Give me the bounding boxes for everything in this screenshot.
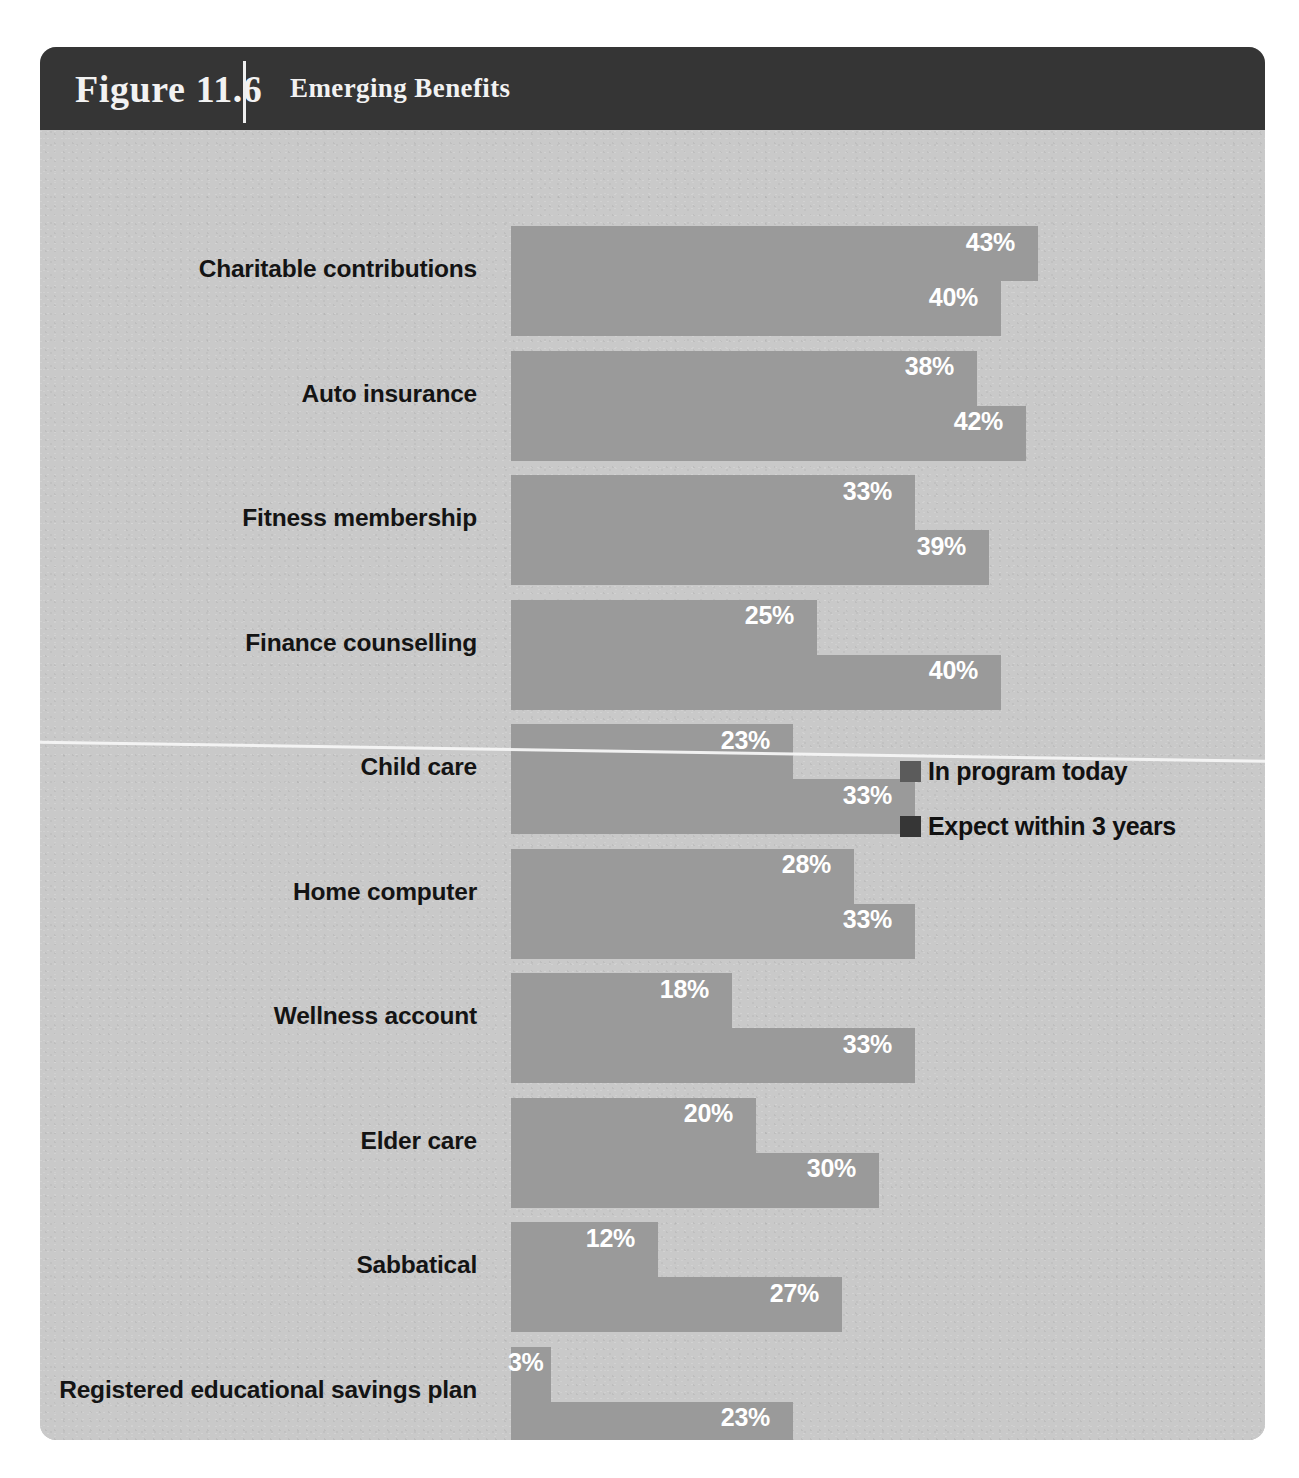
bar-group-in-program-today: 28%: [500, 838, 843, 893]
chart-row: Sabbatical12%27%: [40, 1211, 1265, 1321]
bar-value-label: 39%: [917, 531, 966, 560]
bar-group-in-program-today: 38%: [500, 340, 966, 395]
chart-row: Fitness membership33%39%: [40, 464, 1265, 574]
chart-row: Registered educational savings plan3%23%: [40, 1336, 1265, 1441]
bar-group-expect-within-3-years: 42%: [500, 395, 1015, 450]
category-label: Sabbatical: [40, 1251, 477, 1279]
legend-item: In program today: [900, 757, 1176, 786]
bar-group-expect-within-3-years: 39%: [500, 519, 978, 574]
category-label: Elder care: [40, 1127, 477, 1155]
bar-group-expect-within-3-years: 23%: [500, 1391, 782, 1441]
figure-number: Figure 11.6: [40, 67, 243, 111]
bar-group-in-program-today: 25%: [500, 589, 806, 644]
bar-value-label: 28%: [782, 850, 831, 879]
chart-row: Auto insurance38%42%: [40, 340, 1265, 450]
bar-value-label: 12%: [586, 1223, 635, 1252]
category-label: Fitness membership: [40, 504, 477, 532]
category-label: Home computer: [40, 878, 477, 906]
bar-value-label: 38%: [905, 352, 954, 381]
bar-shadow: [511, 655, 1001, 710]
bar-value-label: 18%: [660, 974, 709, 1003]
chart-row: Wellness account18%33%: [40, 962, 1265, 1072]
bar-group-expect-within-3-years: 27%: [500, 1266, 831, 1321]
figure-container: Figure 11.6 Emerging Benefits Charitable…: [40, 47, 1265, 1440]
bar-group-expect-within-3-years: 30%: [500, 1142, 868, 1197]
bar-value-label: 20%: [684, 1099, 733, 1128]
figure-body: Charitable contributions43%40%Auto insur…: [40, 130, 1265, 1440]
figure-title: Emerging Benefits: [246, 73, 511, 104]
bar-group-in-program-today: 18%: [500, 962, 721, 1017]
bar-group-expect-within-3-years: 40%: [500, 270, 990, 325]
chart-row: Elder care20%30%: [40, 1087, 1265, 1197]
bar-value-label: 42%: [954, 407, 1003, 436]
bar-value-label: 3%: [508, 1348, 544, 1377]
category-label: Auto insurance: [40, 380, 477, 408]
bar-value-label: 33%: [843, 1029, 892, 1058]
bar-value-label: 30%: [807, 1154, 856, 1183]
bar-value-label: 43%: [966, 227, 1015, 256]
bar-value-label: 23%: [721, 725, 770, 754]
bar-value-label: 40%: [929, 282, 978, 311]
category-label: Charitable contributions: [40, 255, 477, 283]
bar-group-expect-within-3-years: 40%: [500, 644, 990, 699]
bar-shadow: [511, 406, 1026, 461]
bar-group-in-program-today: 23%: [500, 713, 782, 768]
category-label: Wellness account: [40, 1002, 477, 1030]
category-label: Child care: [40, 753, 477, 781]
category-label: Finance counselling: [40, 629, 477, 657]
bar-group-in-program-today: 20%: [500, 1087, 745, 1142]
legend-item-label: In program today: [928, 757, 1127, 786]
bar-value-label: 27%: [770, 1278, 819, 1307]
bar-value-label: 25%: [745, 601, 794, 630]
chart-row: Finance counselling25%40%: [40, 589, 1265, 699]
series-dark-swatch: [900, 816, 921, 837]
legend-item: Expect within 3 years: [900, 812, 1176, 841]
bar-group-expect-within-3-years: 33%: [500, 1017, 904, 1072]
bar-group-expect-within-3-years: 33%: [500, 893, 904, 948]
bar-value-label: 23%: [721, 1403, 770, 1432]
category-label: Registered educational savings plan: [40, 1376, 477, 1404]
bar-group-in-program-today: 12%: [500, 1211, 647, 1266]
bar-group-expect-within-3-years: 33%: [500, 768, 904, 823]
legend-item-label: Expect within 3 years: [928, 812, 1176, 841]
bar-group-in-program-today: 33%: [500, 464, 904, 519]
figure-header: Figure 11.6 Emerging Benefits: [40, 47, 1265, 130]
chart-row: Charitable contributions43%40%: [40, 215, 1265, 325]
bar-shadow: [511, 281, 1001, 336]
bar-group-in-program-today: 43%: [500, 215, 1027, 270]
bar-group-in-program-today: 3%: [500, 1336, 540, 1391]
bar-value-label: 33%: [843, 780, 892, 809]
bar-value-label: 33%: [843, 905, 892, 934]
bar-value-label: 33%: [843, 476, 892, 505]
chart-legend: In program today Expect within 3 years: [900, 757, 1176, 867]
series-light-swatch: [900, 761, 921, 782]
bar-value-label: 40%: [929, 656, 978, 685]
